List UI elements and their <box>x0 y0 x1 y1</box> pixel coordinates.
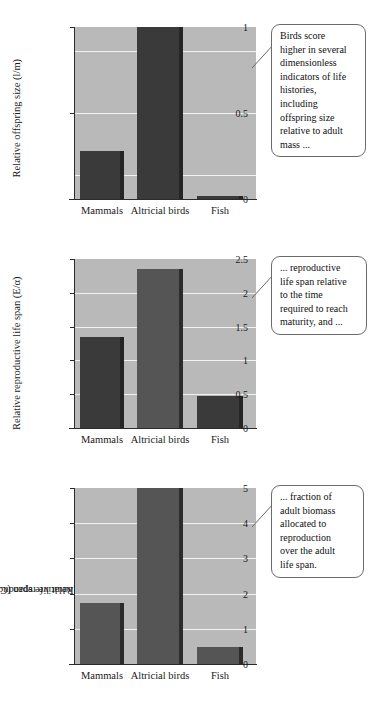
chart-2-y-axis-line <box>74 259 75 428</box>
chart-1-callout-line-9: mass ... <box>280 138 358 152</box>
chart-panel-2: Relative reproductive life span (E/α) <box>0 237 371 469</box>
chart-3-callout: ... fraction of adult biomass allocated … <box>271 485 364 578</box>
chart-2-bar-altricial-birds-side <box>179 269 183 428</box>
chart-2-category-label-mammals: Mammals <box>81 434 123 445</box>
chart-1-ytick-0.5 <box>70 113 75 114</box>
chart-1-ytick-label-1: 1 <box>243 22 248 33</box>
chart-3-ytick-5 <box>70 488 75 489</box>
chart-2-ytick-label-2.5: 2.5 <box>236 254 249 265</box>
chart-3-ytick-2 <box>70 594 75 595</box>
chart-2-callout-line-4: required to reach <box>280 302 359 316</box>
chart-2-bar-mammals-side <box>120 337 124 428</box>
chart-1-bar-mammals <box>80 151 124 199</box>
chart-1-ytick-1 <box>70 27 75 28</box>
chart-1-bar-altricial-birds-side <box>179 27 183 199</box>
figure-root: Relative offspring size (l/m) <box>0 0 371 711</box>
chart-1-callout-line-8: relative to adult <box>280 124 358 138</box>
chart-2-ytick-label-0: 0 <box>243 423 248 434</box>
chart-1-category-label-altricial-birds: Altricial birds <box>131 205 190 216</box>
chart-3-category-label-fish: Fish <box>211 670 229 681</box>
chart-1-callout-line-5: histories, <box>280 83 358 97</box>
chart-1-callout-line-3: dimensionless <box>280 56 358 70</box>
chart-3-ytick-4 <box>70 523 75 524</box>
chart-3-ytick-label-3: 3 <box>243 553 248 564</box>
chart-1-callout: Birds score higher in several dimensionl… <box>271 24 366 157</box>
chart-3-category-label-altricial-birds: Altricial birds <box>131 670 190 681</box>
chart-3-ytick-label-5: 5 <box>243 483 248 494</box>
chart-2-y-axis-title: Relative reproductive life span (E/α) <box>0 237 34 469</box>
chart-3-ytick-label-1: 1 <box>243 623 248 634</box>
chart-2-ytick-label-2: 2 <box>243 287 248 298</box>
chart-1-y-axis-title-text: Relative offspring size (l/m) <box>11 59 23 177</box>
chart-1-x-axis-line <box>69 199 257 200</box>
chart-3-ytick-1 <box>70 629 75 630</box>
chart-3-plot-background <box>75 488 256 664</box>
chart-3-ytick-label-0: 0 <box>243 659 248 670</box>
chart-3-ytick-label-2: 2 <box>243 588 248 599</box>
chart-3-callout-line-2: adult biomass <box>280 504 356 518</box>
chart-1-category-label-fish: Fish <box>211 205 229 216</box>
chart-2-callout-line-3: to the time <box>280 288 359 302</box>
chart-3-plot-area: 5 4 3 2 1 0 Mammals Altricial birds Fish <box>75 488 256 664</box>
chart-3-bar-mammals-side <box>120 603 124 664</box>
chart-3-bar-mammals-face <box>80 603 124 664</box>
chart-3-ytick-3 <box>70 558 75 559</box>
chart-2-plot-area: 2.5 2 1.5 1 0.5 0 Mammals Altricial bird… <box>75 259 256 428</box>
chart-3-bar-mammals <box>80 603 124 664</box>
chart-1-callout-line-2: higher in several <box>280 43 358 57</box>
chart-1-callout-line-4: indicators of life <box>280 70 358 84</box>
chart-2-bar-altricial-birds-face <box>137 269 183 428</box>
chart-panel-1: Relative offspring size (l/m) <box>0 0 371 237</box>
chart-2-callout-line-1: ... reproductive <box>280 261 359 275</box>
chart-2-ytick-1 <box>70 360 75 361</box>
chart-3-x-axis-line <box>69 664 257 665</box>
chart-2-ytick-label-1.5: 1.5 <box>236 321 249 332</box>
chart-panel-3: Relative reproductive effort overadult l… <box>0 469 371 711</box>
chart-3-callout-line-3: allocated to <box>280 517 356 531</box>
chart-1-ytick-label-0: 0 <box>243 194 248 205</box>
chart-1-category-label-mammals: Mammals <box>81 205 123 216</box>
chart-2-ytick-2 <box>70 293 75 294</box>
chart-2-ytick-1.5 <box>70 327 75 328</box>
chart-3-ytick-label-4: 4 <box>243 518 248 529</box>
chart-3-ytick-0 <box>70 664 75 665</box>
chart-1-plot-area: 1 0.5 0 Mammals Altricial birds Fish <box>75 27 256 199</box>
chart-2-callout-line-5: maturity, and ... <box>280 315 359 329</box>
chart-2-callout-line-2: life span relative <box>280 275 359 289</box>
chart-1-y-axis-title: Relative offspring size (l/m) <box>0 0 34 237</box>
chart-3-y-axis-line <box>74 488 75 664</box>
chart-3-bar-fish-face <box>197 647 243 664</box>
chart-2-ytick-0 <box>70 428 75 429</box>
chart-2-ytick-2.5 <box>70 259 75 260</box>
chart-2-bar-altricial-birds <box>137 269 183 428</box>
chart-1-callout-line-7: offspring size <box>280 111 358 125</box>
chart-1-ytick-0 <box>70 199 75 200</box>
chart-2-ytick-label-0.5: 0.5 <box>236 389 249 400</box>
chart-3-callout-line-4: reproduction <box>280 531 356 545</box>
chart-3-bar-altricial-birds-side <box>179 488 183 664</box>
chart-3-callout-line-6: life span. <box>280 558 356 572</box>
chart-3-callout-line-5: over the adult <box>280 544 356 558</box>
chart-2-ytick-0.5 <box>70 394 75 395</box>
chart-3-bar-fish <box>197 647 243 664</box>
chart-2-plot-background <box>75 259 256 428</box>
chart-1-bar-altricial-birds-face <box>137 27 183 199</box>
chart-2-callout: ... reproductive life span relative to t… <box>271 256 367 335</box>
chart-3-bar-altricial-birds <box>137 488 183 664</box>
chart-1-callout-line-6: including <box>280 97 358 111</box>
chart-2-bar-mammals-face <box>80 337 124 428</box>
chart-2-y-axis-title-text: Relative reproductive life span (E/α) <box>11 276 23 430</box>
chart-2-bar-fish-face <box>197 396 243 428</box>
chart-2-bar-mammals <box>80 337 124 428</box>
chart-2-category-label-fish: Fish <box>211 434 229 445</box>
chart-3-y-axis-title-text: Relative reproductive effort overadult l… <box>0 515 36 665</box>
chart-1-plot-background <box>75 27 256 199</box>
chart-3-bar-altricial-birds-face <box>137 488 183 664</box>
chart-1-ytick-label-0.5: 0.5 <box>236 108 249 119</box>
chart-1-callout-line-1: Birds score <box>280 29 358 43</box>
chart-1-bar-mammals-side <box>120 151 124 199</box>
chart-2-category-label-altricial-birds: Altricial birds <box>131 434 190 445</box>
chart-2-bar-fish <box>197 396 243 428</box>
chart-1-bar-altricial-birds <box>137 27 183 199</box>
chart-3-y-axis-title: Relative reproductive effort overadult l… <box>0 469 34 711</box>
